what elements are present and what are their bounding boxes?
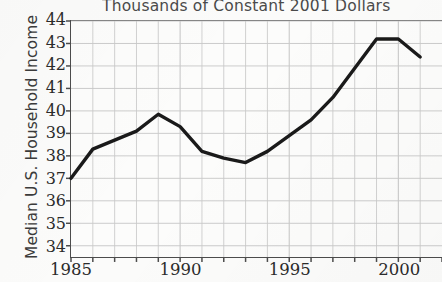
chart-figure: Thousands of Constant 2001 Dollars Media… (0, 0, 442, 282)
y-axis-tick-labels: 4443424140393837363534 (28, 0, 66, 282)
y-tick-label: 38 (32, 148, 66, 164)
x-tick-label: 2000 (378, 262, 420, 279)
y-tick-label: 43 (32, 35, 66, 51)
chart-title: Thousands of Constant 2001 Dollars (102, 0, 442, 16)
data-line (71, 21, 442, 257)
y-tick-label: 34 (32, 239, 66, 255)
y-tick-label: 41 (32, 80, 66, 96)
x-tick-label: 1995 (269, 262, 311, 279)
y-tick-label: 39 (32, 125, 66, 141)
x-tick-label: 1985 (50, 262, 92, 279)
y-tick-label: 35 (32, 216, 66, 232)
y-tick-label: 40 (32, 103, 66, 119)
plot-area (70, 20, 442, 258)
y-tick-label: 37 (32, 171, 66, 187)
x-tick-label: 1990 (159, 262, 201, 279)
y-tick-label: 36 (32, 193, 66, 209)
y-tick-label: 44 (32, 12, 66, 28)
y-tick-label: 42 (32, 57, 66, 73)
